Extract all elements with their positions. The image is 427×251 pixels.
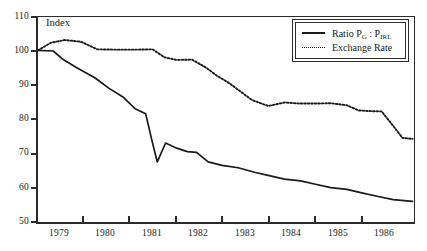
legend-entry-ratio: Ratio PG : PIRL [302,26,400,41]
legend-entry-exchange-rate: Exchange Rate [302,41,400,56]
chart-figure: Index 110 100 90 80 70 60 50 1979 1980 1… [0,0,427,251]
legend-key-solid-icon [302,32,327,34]
legend-label-ratio: Ratio PG : PIRL [332,28,391,39]
legend-key-dotted-icon [302,47,327,48]
legend-box: Ratio PG : PIRL Exchange Rate [292,19,409,62]
legend-label-exchange-rate: Exchange Rate [332,42,392,53]
series-line-ratio [38,50,413,201]
